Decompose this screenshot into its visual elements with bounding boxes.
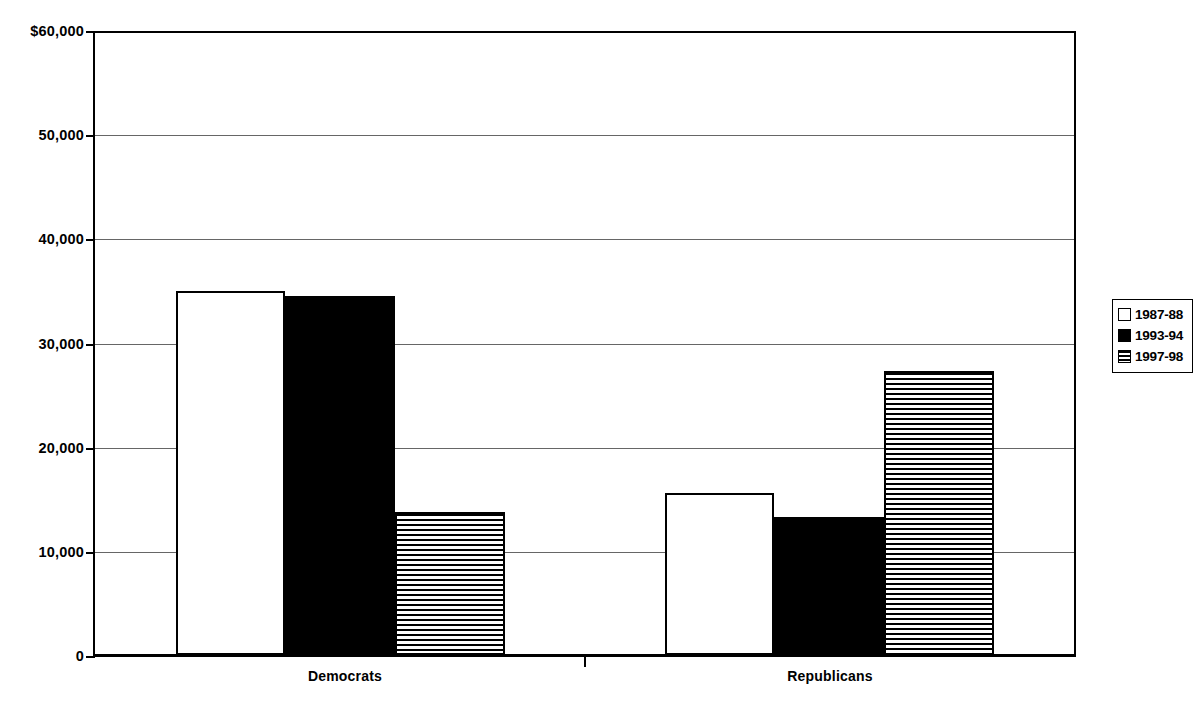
chart-legend: 1987-88 1993-94 1997-98 [1112,299,1193,373]
legend-entry-1997-98: 1997-98 [1118,346,1187,367]
x-axis-line [95,654,1074,656]
bar-republicans-1993-94 [774,517,884,655]
y-axis-label-50000: 50,000 [4,127,84,143]
bar-chart: $60,000 50,000 40,000 30,000 20,000 10,0… [0,0,1202,707]
bar-democrats-1993-94 [285,296,395,655]
y-axis-label-40000: 40,000 [4,231,84,247]
legend-label-1993-94: 1993-94 [1135,328,1183,343]
bar-democrats-1987-88 [176,291,285,655]
plot-area [93,31,1076,657]
y-axis-label-60000: $60,000 [4,23,84,39]
x-axis-label-republicans: Republicans [730,668,930,684]
legend-swatch-icon-1993-94 [1118,329,1131,342]
legend-label-1987-88: 1987-88 [1135,307,1183,322]
bar-democrats-1997-98 [395,512,505,655]
legend-swatch-icon-1997-98 [1118,350,1131,363]
y-axis-label-0: 0 [4,648,84,664]
x-axis-tick-separator [584,657,586,667]
gridline-50000 [95,135,1074,136]
y-axis-label-10000: 10,000 [4,544,84,560]
legend-entry-1993-94: 1993-94 [1118,325,1187,346]
y-axis-label-30000: 30,000 [4,336,84,352]
bar-republicans-1997-98 [884,371,994,655]
y-axis-label-20000: 20,000 [4,440,84,456]
legend-swatch-icon-1987-88 [1118,308,1131,321]
bar-republicans-1987-88 [665,493,774,655]
legend-entry-1987-88: 1987-88 [1118,304,1187,325]
x-axis-label-democrats: Democrats [245,668,445,684]
gridline-40000 [95,239,1074,240]
legend-label-1997-98: 1997-98 [1135,349,1183,364]
